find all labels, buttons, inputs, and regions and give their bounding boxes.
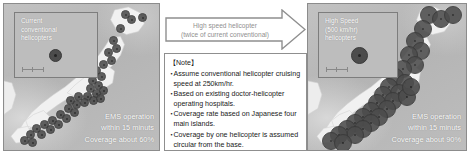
right-inset-line-1: High Speed <box>325 17 358 26</box>
coverage-circle <box>37 130 46 139</box>
coverage-circle <box>28 138 37 147</box>
left-caption-line-2: within 15 minuts <box>85 122 154 133</box>
note-box: 【Note】 Assume conventional helicopter cr… <box>164 53 307 151</box>
arrow-label-line-2: (twice of current conventional) <box>169 30 281 39</box>
right-map-caption: EMS operation within 15 minuts Coverage … <box>392 111 461 145</box>
left-map-caption: EMS operation within 15 minuts Coverage … <box>85 111 154 145</box>
coverage-circle <box>70 108 79 117</box>
right-inset-line-3: helicopters <box>325 34 358 43</box>
note-item: Assume conventional helicopter cruising … <box>169 69 303 89</box>
left-map-panel: Current conventional helicopters EMS ope… <box>3 3 160 151</box>
note-list: Assume conventional helicopter cruising … <box>169 69 303 150</box>
right-inset-line-2: (500 km/hr) <box>325 26 358 35</box>
arrow-label-line-1: High speed helicopter <box>169 21 281 30</box>
left-inset-line-2: conventional <box>21 26 57 35</box>
coverage-circle <box>112 44 121 53</box>
note-title: 【Note】 <box>169 58 303 68</box>
right-caption-line-2: within 15 minuts <box>392 122 461 133</box>
coverage-circle <box>74 92 83 101</box>
coverage-circle <box>444 6 462 24</box>
right-caption-line-3: Coverage about 90% <box>392 134 461 145</box>
center-column: High speed helicopter (twice of current … <box>162 0 306 164</box>
coverage-circle <box>62 114 71 123</box>
left-caption-line-3: Coverage about 60% <box>85 134 154 145</box>
coverage-circle <box>54 120 63 129</box>
left-caption-line-1: EMS operation <box>85 111 154 122</box>
right-inset-label: High Speed (500 km/hr) helicopters <box>325 17 358 43</box>
coverage-circle <box>46 125 55 134</box>
right-map-inset: High Speed (500 km/hr) helicopters <box>318 12 398 78</box>
note-item: Coverage rate based on Japanese four mai… <box>169 109 303 129</box>
coverage-circle <box>97 72 106 81</box>
coverage-circle <box>107 56 116 65</box>
note-item: Coverage by one helicopter is assumed ci… <box>169 130 303 150</box>
coverage-circle <box>334 134 352 151</box>
left-inset-line-3: helicopters <box>21 34 57 43</box>
coverage-circle <box>116 24 125 33</box>
transition-arrow: High speed helicopter (twice of current … <box>165 9 306 50</box>
coverage-circle <box>66 96 75 105</box>
right-inset-scalebar <box>326 67 352 72</box>
right-caption-line-1: EMS operation <box>392 111 461 122</box>
left-map-inset: Current conventional helicopters <box>14 12 98 78</box>
right-map-panel: High Speed (500 km/hr) helicopters EMS o… <box>307 3 467 151</box>
left-inset-coverage-circle <box>49 49 62 62</box>
coverage-circle <box>402 78 420 96</box>
right-inset-coverage-circle <box>351 47 368 64</box>
left-inset-line-1: Current <box>21 17 57 26</box>
coverage-circle <box>138 13 147 22</box>
arrow-label: High speed helicopter (twice of current … <box>169 21 281 40</box>
coverage-circle <box>127 15 136 24</box>
note-item: Based on existing doctor-helicopter oper… <box>169 89 303 109</box>
left-inset-scalebar <box>22 67 48 72</box>
coverage-circle <box>99 86 108 95</box>
left-inset-label: Current conventional helicopters <box>21 17 57 43</box>
coverage-circle <box>96 94 105 103</box>
